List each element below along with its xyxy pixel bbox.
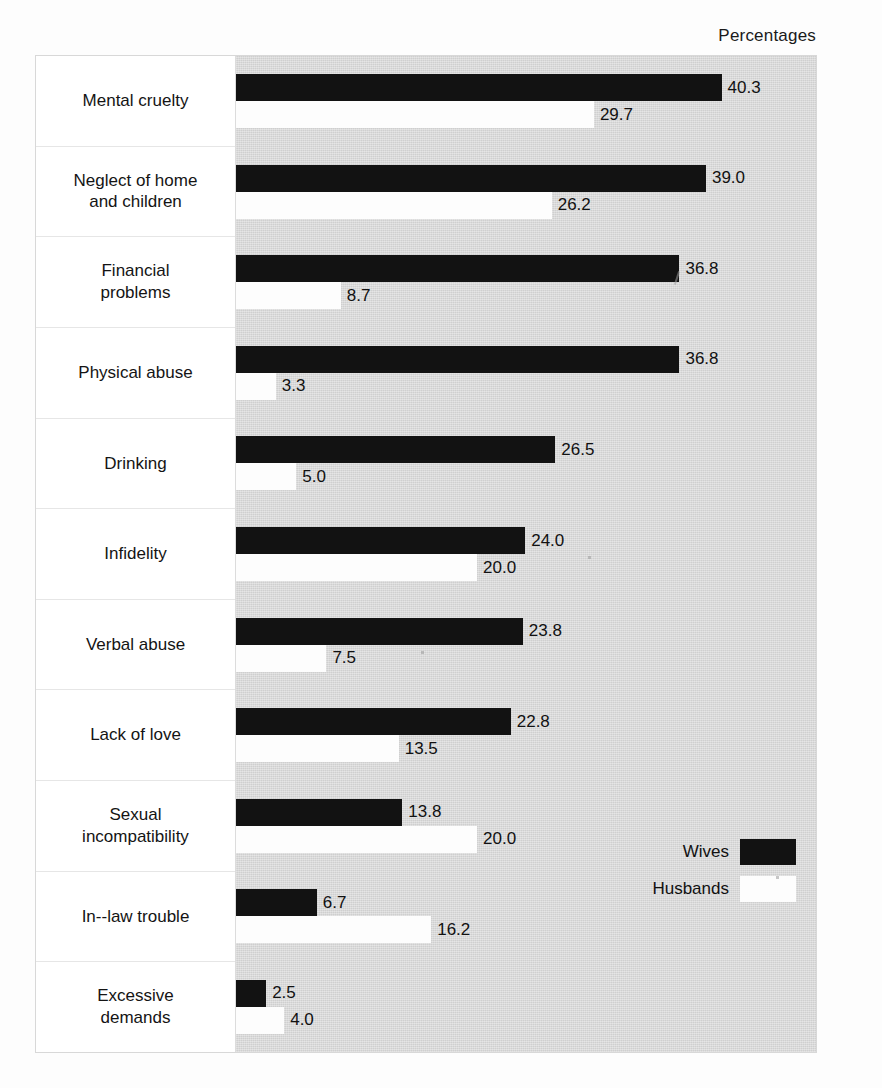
category-label-text: Verbal abuse	[86, 634, 185, 656]
bar-row: 36.8	[236, 346, 816, 373]
bar-group: 24.020.0	[236, 509, 816, 600]
bar-row: 23.8	[236, 618, 816, 645]
scan-artifact-2	[588, 556, 591, 559]
category-label-text: Mental cruelty	[83, 90, 189, 112]
bar-row: 36.8	[236, 255, 816, 282]
bar-row: 24.0	[236, 527, 816, 554]
category-label-column: Mental crueltyNeglect of homeand childre…	[36, 56, 236, 1052]
bar-value-label: 13.8	[408, 802, 441, 822]
category-label-text: Neglect of homeand children	[74, 170, 198, 214]
bar-row: 7.5	[236, 645, 816, 672]
bar-value-label: 5.0	[302, 467, 326, 487]
category-label-text: Excessivedemands	[97, 985, 174, 1029]
bar-husbands	[236, 554, 477, 581]
bar-wives	[236, 618, 523, 645]
category-label-text: Financialproblems	[101, 260, 171, 304]
bar-row: 26.5	[236, 436, 816, 463]
category-label: Lack of love	[36, 690, 235, 781]
bar-value-label: 20.0	[483, 829, 516, 849]
category-label: Verbal abuse	[36, 600, 235, 691]
bar-husbands	[236, 735, 399, 762]
bar-value-label: 3.3	[282, 376, 306, 396]
bar-value-label: 16.2	[437, 920, 470, 940]
bar-husbands	[236, 192, 552, 219]
category-label-text: Sexualincompatibility	[82, 804, 189, 848]
bar-husbands	[236, 826, 477, 853]
bar-group: 26.55.0	[236, 418, 816, 509]
bar-value-label: 20.0	[483, 558, 516, 578]
percentages-caption: Percentages	[718, 26, 816, 46]
bar-value-label: 36.8	[685, 349, 718, 369]
category-label: Neglect of homeand children	[36, 147, 235, 238]
chart-frame: Mental crueltyNeglect of homeand childre…	[35, 55, 817, 1053]
legend-label-husbands: Husbands	[652, 879, 729, 899]
category-label-text: Infidelity	[104, 543, 166, 565]
bar-wives	[236, 980, 266, 1007]
bar-value-label: 39.0	[712, 168, 745, 188]
bar-row: 13.8	[236, 799, 816, 826]
category-label-text: Lack of love	[90, 724, 181, 746]
bar-row: 4.0	[236, 1007, 816, 1034]
bar-row: 8.7	[236, 282, 816, 309]
bar-husbands	[236, 916, 431, 943]
bar-value-label: 40.3	[728, 78, 761, 98]
bar-wives	[236, 74, 722, 101]
bar-wives	[236, 889, 317, 916]
scan-artifact-3	[776, 876, 779, 879]
bar-value-label: 24.0	[531, 531, 564, 551]
bar-value-label: 26.5	[561, 440, 594, 460]
bar-wives	[236, 255, 679, 282]
bar-value-label: 26.2	[558, 195, 591, 215]
bar-value-label: 36.8	[685, 259, 718, 279]
bar-husbands	[236, 282, 341, 309]
bar-husbands	[236, 101, 594, 128]
scan-artifact-4	[421, 651, 424, 654]
bar-value-label: 13.5	[405, 739, 438, 759]
bar-group: 2.54.0	[236, 961, 816, 1052]
bar-wives	[236, 436, 555, 463]
bar-value-label: 8.7	[347, 286, 371, 306]
bar-value-label: 22.8	[517, 712, 550, 732]
bar-row: 39.0	[236, 165, 816, 192]
bar-value-label: 6.7	[323, 893, 347, 913]
plot-area: 40.329.739.026.236.88.736.83.326.55.024.…	[236, 56, 816, 1052]
bar-row: 13.5	[236, 735, 816, 762]
chart-legend: Wives Husbands	[652, 839, 796, 902]
legend-swatch-husbands	[740, 876, 796, 902]
bar-group: 40.329.7	[236, 56, 816, 147]
bar-row: 5.0	[236, 463, 816, 490]
bar-group: 39.026.2	[236, 147, 816, 238]
category-label: Mental cruelty	[36, 56, 235, 147]
bar-husbands	[236, 645, 326, 672]
bar-husbands	[236, 1007, 284, 1034]
bar-group: 23.87.5	[236, 599, 816, 690]
bar-wives	[236, 527, 525, 554]
category-label-text: Drinking	[104, 453, 166, 475]
bar-value-label: 4.0	[290, 1010, 314, 1030]
legend-swatch-wives	[740, 839, 796, 865]
bar-wives	[236, 165, 706, 192]
category-label: In--law trouble	[36, 872, 235, 963]
bar-group: 22.813.5	[236, 690, 816, 781]
legend-label-wives: Wives	[683, 842, 729, 862]
legend-item-husbands: Husbands	[652, 876, 796, 902]
bar-value-label: 2.5	[272, 983, 296, 1003]
bar-row: 26.2	[236, 192, 816, 219]
category-label-text: Physical abuse	[78, 362, 192, 384]
bar-row: 40.3	[236, 74, 816, 101]
bar-wives	[236, 346, 679, 373]
chart-page: Percentages Mental crueltyNeglect of hom…	[0, 0, 882, 1088]
category-label: Infidelity	[36, 509, 235, 600]
bar-row: 3.3	[236, 373, 816, 400]
bar-value-label: 23.8	[529, 621, 562, 641]
category-label: Excessivedemands	[36, 962, 235, 1052]
category-label: Physical abuse	[36, 328, 235, 419]
category-label: Financialproblems	[36, 237, 235, 328]
bar-row: 16.2	[236, 916, 816, 943]
bar-wives	[236, 708, 511, 735]
bar-row: 2.5	[236, 980, 816, 1007]
bar-value-label: 29.7	[600, 105, 633, 125]
bar-row: 29.7	[236, 101, 816, 128]
category-label: Sexualincompatibility	[36, 781, 235, 872]
bar-value-label: 7.5	[332, 648, 356, 668]
